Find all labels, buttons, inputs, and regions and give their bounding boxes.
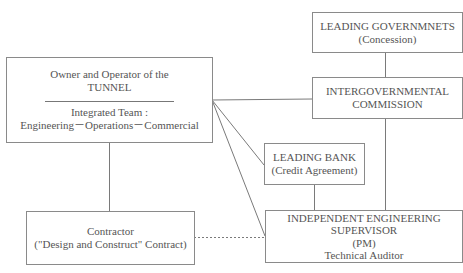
leading-governments-line2: (Concession)	[358, 33, 416, 46]
contractor-line1: Contractor	[87, 225, 134, 238]
supervisor-line1: INDEPENDENT ENGINEERING	[287, 212, 440, 225]
independent-engineering-supervisor-box: INDEPENDENT ENGINEERING SUPERVISOR (PM) …	[265, 210, 463, 263]
leading-governments-box: LEADING GOVERNMNETS (Concession)	[312, 12, 463, 53]
supervisor-line3: (PM)	[352, 237, 375, 250]
owner-team-line1: Integrated Team :	[71, 106, 148, 119]
owner-operator-box: Owner and Operator of the TUNNEL Integra…	[6, 57, 213, 143]
intergovernmental-commission-box: INTERGOVERNMENTAL COMMISSION	[312, 77, 463, 119]
owner-title-line1: Owner and Operator of the	[50, 68, 169, 81]
leading-bank-box: LEADING BANK (Credit Agreement)	[264, 143, 365, 185]
supervisor-line4: Technical Auditor	[325, 249, 404, 262]
edge-owner-supervisor	[212, 100, 265, 236]
leading-bank-line2: (Credit Agreement)	[272, 164, 358, 177]
leading-governments-line1: LEADING GOVERNMNETS	[320, 20, 455, 33]
commission-line2: COMMISSION	[352, 98, 422, 111]
edge-owner-commission	[212, 99, 312, 100]
owner-title-line2: TUNNEL	[88, 81, 132, 94]
commission-line1: INTERGOVERNMENTAL	[326, 85, 449, 98]
edge-owner-bank	[212, 100, 264, 165]
owner-team-line2: Engineering－Operations－Commercial	[20, 119, 198, 132]
contractor-line2: ("Design and Construct" Contract)	[34, 238, 186, 251]
contractor-box: Contractor ("Design and Construct" Contr…	[26, 211, 195, 265]
supervisor-line2: SUPERVISOR	[331, 224, 397, 237]
owner-divider	[45, 101, 174, 102]
leading-bank-line1: LEADING BANK	[273, 151, 356, 164]
